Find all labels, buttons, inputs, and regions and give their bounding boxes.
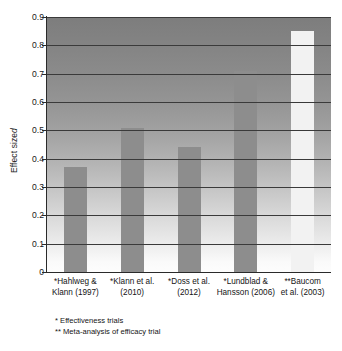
bar xyxy=(121,128,144,273)
footnotes: * Effectiveness trials** Meta-analysis o… xyxy=(55,316,325,337)
y-axis-tick-mark xyxy=(42,215,46,216)
y-axis-tick-mark xyxy=(42,102,46,103)
y-axis-tick-mark xyxy=(42,159,46,160)
gridline xyxy=(47,187,331,188)
footnote: * Effectiveness trials xyxy=(55,316,325,327)
category-label-line: *Doss et al. xyxy=(158,277,221,288)
y-axis-tick-mark xyxy=(42,244,46,245)
y-axis-tick-label: 0.8 xyxy=(18,41,44,50)
y-axis-tick-labels: 0.90.80.70.60.50.40.30.20.10 xyxy=(18,11,44,277)
category-label-line: Hansson (2006) xyxy=(214,288,277,299)
bars-layer xyxy=(47,17,331,272)
category-label-line: et al. (2003) xyxy=(271,288,334,299)
gridline xyxy=(47,17,331,18)
y-axis-tick-label: 0.3 xyxy=(18,183,44,192)
y-axis-tick-label: 0.6 xyxy=(18,98,44,107)
bar xyxy=(291,31,314,272)
footnote: ** Meta-analysis of efficacy trial xyxy=(55,327,325,338)
y-axis-tick-label: 0.4 xyxy=(18,154,44,163)
y-axis-tick-label: 0.2 xyxy=(18,211,44,220)
gridline xyxy=(47,215,331,216)
y-axis-tick-mark xyxy=(42,45,46,46)
y-axis-tick-label: 0 xyxy=(18,268,44,277)
gridline xyxy=(47,244,331,245)
bar xyxy=(178,147,201,272)
y-axis-tick-label: 0.9 xyxy=(18,13,44,22)
gridline xyxy=(47,130,331,131)
category-label-line: *Hahlweg & xyxy=(44,277,107,288)
x-axis-category-label: *Doss et al.(2012) xyxy=(158,277,221,298)
x-axis-category-label: **Baucomet al. (2003) xyxy=(271,277,334,298)
x-axis-category-label: *Klann et al.(2010) xyxy=(101,277,164,298)
gridline xyxy=(47,74,331,75)
y-axis-tick-mark xyxy=(42,130,46,131)
y-axis-tick-label: 0.5 xyxy=(18,126,44,135)
category-label-line: (2010) xyxy=(101,288,164,299)
y-axis-tick-mark xyxy=(42,272,46,273)
gridline xyxy=(47,159,331,160)
gridline xyxy=(47,45,331,46)
y-axis-tick-mark xyxy=(42,74,46,75)
y-axis-tick-mark xyxy=(42,187,46,188)
y-axis-tick-label: 0.1 xyxy=(18,239,44,248)
category-label-line: (2012) xyxy=(158,288,221,299)
y-axis-tick-mark xyxy=(42,17,46,18)
x-axis-category-labels: *Hahlweg &Klann (1997)*Klann et al.(2010… xyxy=(47,277,331,307)
category-label-line: *Klann et al. xyxy=(101,277,164,288)
category-label-line: Klann (1997) xyxy=(44,288,107,299)
category-label-line: **Baucom xyxy=(271,277,334,288)
y-axis-tick-label: 0.7 xyxy=(18,69,44,78)
x-axis-line xyxy=(46,272,331,273)
gridline xyxy=(47,102,331,103)
plot-area xyxy=(47,17,331,272)
effect-size-bar-chart: Effect size d 0.90.80.70.60.50.40.30.20.… xyxy=(0,0,342,351)
category-label-line: *Lundblad & xyxy=(214,277,277,288)
x-axis-category-label: *Hahlweg &Klann (1997) xyxy=(44,277,107,298)
bar xyxy=(64,167,87,272)
x-axis-category-label: *Lundblad &Hansson (2006) xyxy=(214,277,277,298)
